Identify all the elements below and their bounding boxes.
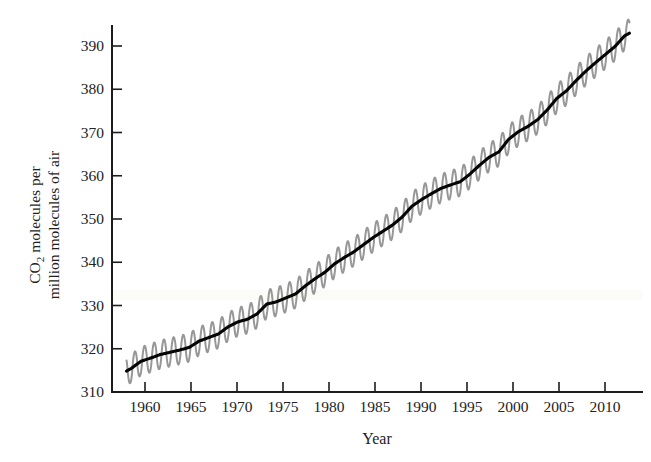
y-tick-label-390: 390 (81, 37, 105, 54)
x-tick-label-1975: 1975 (268, 398, 299, 415)
co2-concentration-chart: CO2 molecules per million molecules of a… (0, 0, 651, 462)
y-tick-label-370: 370 (81, 124, 105, 141)
x-tick-label-1970: 1970 (222, 398, 253, 415)
y-tick-label-320: 320 (81, 340, 105, 357)
y-axis-title-line2: million molecules of air (45, 150, 62, 299)
x-tick-label-1990: 1990 (406, 398, 437, 415)
x-tick-label-2010: 2010 (590, 398, 621, 415)
x-tick-label-2005: 2005 (544, 398, 575, 415)
x-axis-title: Year (362, 430, 392, 447)
y-tick-label-330: 330 (81, 297, 105, 314)
y-tick-label-360: 360 (81, 167, 105, 184)
x-tick-label-2000: 2000 (498, 398, 529, 415)
y-tick-label-350: 350 (81, 210, 105, 227)
x-tick-label-1980: 1980 (314, 398, 345, 415)
scan-artifact-band (112, 290, 642, 300)
x-tick-label-1965: 1965 (176, 398, 207, 415)
y-tick-label-310: 310 (81, 383, 105, 400)
x-tick-label-1995: 1995 (452, 398, 483, 415)
y-tick-label-380: 380 (81, 80, 105, 97)
y-tick-label-340: 340 (81, 253, 105, 270)
x-tick-label-1960: 1960 (130, 398, 161, 415)
x-tick-label-1985: 1985 (360, 398, 391, 415)
